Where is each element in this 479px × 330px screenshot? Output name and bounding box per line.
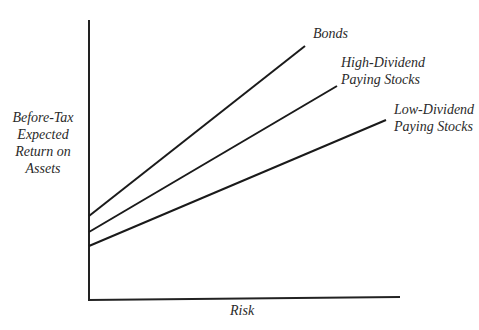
low-dividend-label: Low-Dividend Paying Stocks [394, 101, 474, 135]
label-line: Paying Stocks [341, 71, 425, 88]
y-axis-label: Before-Tax Expected Return on Assets [4, 109, 82, 177]
bonds-label: Bonds [313, 25, 348, 42]
y-label-line: Return on [4, 143, 82, 160]
bonds-line [89, 46, 305, 216]
y-label-line: Assets [4, 160, 82, 177]
y-label-line: Before-Tax [4, 109, 82, 126]
high-dividend-line [89, 86, 337, 232]
label-line: Paying Stocks [394, 118, 474, 135]
low-dividend-line [89, 120, 386, 246]
label-line: Low-Dividend [394, 101, 474, 118]
x-axis-label: Risk [230, 302, 254, 319]
label-line: High-Dividend [341, 54, 425, 71]
label-line: Bonds [313, 25, 348, 42]
y-label-line: Expected [4, 126, 82, 143]
x-axis [88, 297, 400, 300]
high-dividend-label: High-Dividend Paying Stocks [341, 54, 425, 88]
